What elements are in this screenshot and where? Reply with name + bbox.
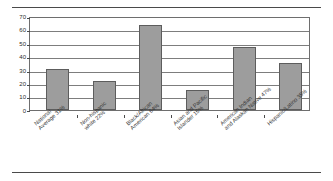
x-cat-label-national-average: National Average 31%	[33, 100, 66, 132]
y-tick-label-30: 30	[19, 68, 26, 74]
y-tick-label-20: 20	[19, 81, 26, 87]
bottom-horizontal-rule	[12, 172, 321, 173]
y-tick-label-40: 40	[19, 54, 26, 60]
chart-figure: 70 60 50 40 30 20 10 0	[0, 0, 333, 181]
bars-layer	[30, 18, 309, 110]
y-tick-label-60: 60	[19, 27, 26, 33]
x-cat-label-black-african-american: Black/African American 64%	[125, 98, 161, 132]
x-cat-label-asian-pacific-islander: Asian and Pacific Islander 15%	[172, 93, 212, 131]
x-axis-category-labels: National Average 31% Non-hispanic white …	[0, 100, 333, 172]
x-cat-label-non-hispanic-white: Non-hispanic white 22%	[79, 100, 112, 131]
top-horizontal-rule	[12, 7, 321, 8]
y-tick-label-50: 50	[19, 41, 26, 47]
y-axis-tick-labels: 70 60 50 40 30 20 10 0	[6, 14, 26, 111]
y-tick-label-70: 70	[19, 14, 26, 20]
plot-frame	[29, 17, 310, 111]
